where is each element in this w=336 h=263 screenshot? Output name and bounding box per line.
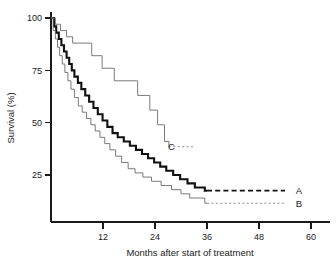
x-tick-label: 24 (150, 232, 160, 242)
series-label-c: C (168, 141, 175, 152)
x-axis-title: Months after start of treatment (126, 247, 254, 258)
series-label-a: A (296, 185, 303, 196)
survival-curve-b (51, 18, 207, 203)
survival-chart-container: 255075100 1224364860 ABC Months after st… (0, 0, 336, 263)
x-tick-label: 36 (202, 232, 212, 242)
y-tick-label: 25 (32, 170, 42, 180)
series-labels: ABC (168, 141, 303, 209)
survival-curves (51, 18, 207, 203)
y-tick-label: 75 (32, 66, 42, 76)
kaplan-meier-plot: 255075100 1224364860 ABC Months after st… (0, 0, 336, 263)
y-tick-label: 50 (32, 118, 42, 128)
y-axis-title: Survival (%) (5, 92, 16, 143)
series-label-b: B (296, 198, 302, 209)
plot-axes (51, 12, 330, 222)
x-tick-label: 12 (98, 232, 108, 242)
y-axis-ticks: 255075100 (27, 13, 51, 180)
x-tick-label: 48 (254, 232, 264, 242)
y-tick-label: 100 (27, 13, 42, 23)
x-tick-label: 60 (306, 232, 316, 242)
survival-curve-a (51, 18, 207, 191)
series-leader-lines (169, 147, 285, 204)
x-axis-ticks: 1224364860 (98, 222, 316, 242)
